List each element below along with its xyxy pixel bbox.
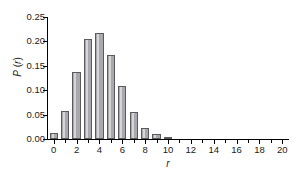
y-tick-label: 0.20 <box>27 36 46 46</box>
bar <box>84 39 92 139</box>
x-tick-label: 8 <box>133 145 157 155</box>
x-tick <box>134 140 135 143</box>
bar <box>61 111 69 139</box>
x-tick-label: 14 <box>202 145 226 155</box>
x-tick <box>179 140 180 143</box>
x-tick <box>225 140 226 143</box>
bar <box>50 133 58 139</box>
x-axis-label: r <box>48 159 288 169</box>
bar <box>95 33 103 139</box>
x-tick <box>111 140 112 143</box>
x-tick <box>248 140 249 143</box>
bar <box>164 137 172 139</box>
bar <box>141 128 149 139</box>
y-axis-label: P (r) <box>13 37 23 97</box>
bar <box>130 112 138 139</box>
x-tick-label: 6 <box>110 145 134 155</box>
x-tick <box>88 140 89 143</box>
bar <box>72 72 80 139</box>
bar-chart-figure: 0.000.050.100.150.200.25 024681012141618… <box>0 0 300 175</box>
x-tick-label: 2 <box>65 145 89 155</box>
x-tick-label: 4 <box>87 145 111 155</box>
y-tick-label: 0.00 <box>27 134 46 144</box>
bar <box>107 55 115 139</box>
y-tick-label: 0.15 <box>27 61 46 71</box>
bar <box>118 86 126 139</box>
x-tick-label: 10 <box>156 145 180 155</box>
x-tick <box>202 140 203 143</box>
plot-area <box>48 17 288 139</box>
x-tick-label: 12 <box>179 145 203 155</box>
y-tick-label: 0.05 <box>27 110 46 120</box>
x-tick-label: 0 <box>42 145 66 155</box>
x-tick-label: 16 <box>225 145 249 155</box>
x-tick-label: 18 <box>247 145 271 155</box>
x-tick-label: 20 <box>270 145 294 155</box>
bar <box>152 134 160 139</box>
x-tick <box>65 140 66 143</box>
x-tick <box>157 140 158 143</box>
y-tick-label: 0.25 <box>27 12 46 22</box>
y-tick-label: 0.10 <box>27 85 46 95</box>
x-tick <box>271 140 272 143</box>
